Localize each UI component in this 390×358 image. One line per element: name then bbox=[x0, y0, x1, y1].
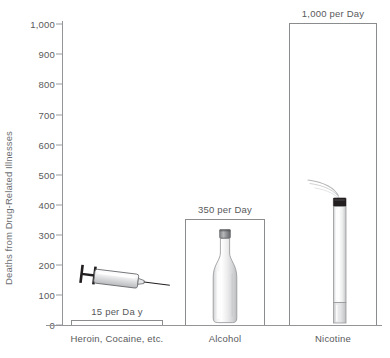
x-axis-labels: Heroin, Cocaine, etc. Alcohol Nicotine bbox=[62, 333, 382, 353]
y-tick-label: 300 bbox=[39, 230, 55, 241]
bar-group-heroin: 15 per Da y bbox=[62, 21, 172, 325]
y-axis-ticks: 1,000 900 800 700 600 500 400 300 200 10… bbox=[18, 0, 63, 358]
y-tick-label: 900 bbox=[39, 49, 55, 60]
y-tick-label: 800 bbox=[39, 79, 55, 90]
bar-group-alcohol: 350 per Day bbox=[180, 21, 270, 325]
x-label-heroin: Heroin, Cocaine, etc. bbox=[62, 333, 172, 344]
y-tick-label: 500 bbox=[39, 170, 55, 181]
x-label-nicotine: Nicotine bbox=[284, 333, 382, 344]
bar-label-nicotine: 1,000 per Day bbox=[302, 8, 364, 19]
bar-label-heroin: 15 per Da y bbox=[91, 306, 142, 317]
y-axis-title: Deaths from Drug-Related Illnesses bbox=[0, 96, 16, 320]
drug-deaths-bar-chart: Deaths from Drug-Related Illnesses 1,000… bbox=[0, 0, 390, 358]
bar-alcohol[interactable] bbox=[185, 219, 265, 325]
x-axis-line bbox=[46, 325, 382, 326]
y-tick-label: 100 bbox=[39, 290, 55, 301]
x-label-alcohol: Alcohol bbox=[180, 333, 270, 344]
y-tick-label: 600 bbox=[39, 140, 55, 151]
y-tick-label: 400 bbox=[39, 200, 55, 211]
y-tick-label: 700 bbox=[39, 110, 55, 121]
bar-label-alcohol: 350 per Day bbox=[198, 204, 252, 215]
bar-heroin[interactable] bbox=[71, 320, 163, 325]
y-tick-label: 1,000 bbox=[30, 19, 55, 30]
syringe-icon bbox=[74, 261, 172, 301]
bar-nicotine[interactable] bbox=[289, 23, 377, 325]
bar-group-nicotine: 1,000 per Day bbox=[284, 21, 382, 325]
y-tick-label: 200 bbox=[39, 260, 55, 271]
y-axis-title-text: Deaths from Drug-Related Illnesses bbox=[3, 131, 14, 285]
plot-area: 15 per Da y bbox=[62, 21, 382, 325]
